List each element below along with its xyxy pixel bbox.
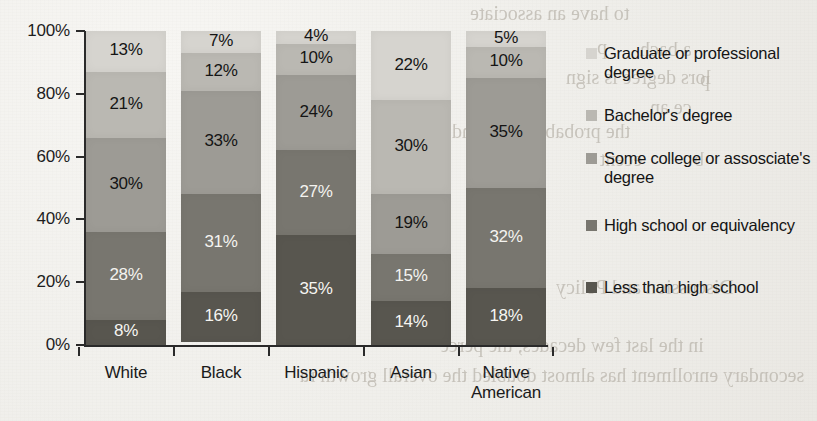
bar-segment-value-label: 33% (204, 131, 237, 151)
y-axis-tick-label: 20% (37, 272, 70, 292)
bar-segment: 22% (371, 31, 451, 100)
bar-segment-value-label: 35% (299, 279, 332, 299)
x-axis-category-label: Asian (359, 363, 463, 383)
bar-segment: 31% (181, 194, 261, 291)
bar-segment-value-label: 13% (109, 40, 142, 60)
bar-segment: 5% (466, 31, 546, 47)
bar-segment: 13% (86, 31, 166, 72)
bar-segment: 4% (276, 31, 356, 44)
bar-segment-value-label: 28% (109, 265, 142, 285)
bar-segment-value-label: 22% (394, 55, 427, 75)
bar-segment: 35% (466, 78, 546, 188)
y-axis-tick-label: 100% (27, 21, 70, 41)
bar-segment: 33% (181, 91, 261, 195)
y-axis-tick-label: 60% (37, 147, 70, 167)
bar-segment: 19% (371, 194, 451, 254)
x-axis-tick-mark (78, 347, 80, 356)
bar-segment-value-label: 27% (299, 182, 332, 202)
bar-segment-value-label: 30% (394, 136, 427, 156)
bar-segment: 14% (371, 301, 451, 345)
legend-color-swatch-icon (586, 153, 597, 164)
x-axis-category-label: White (74, 363, 178, 383)
bar-segment: 24% (276, 75, 356, 150)
x-axis-category-label: Hispanic (264, 363, 368, 383)
legend-item-label: Graduate or professional degree (604, 44, 817, 82)
x-axis-tick-mark (552, 347, 554, 356)
x-axis-tick-mark (363, 347, 365, 356)
legend-item: Less than high school (586, 278, 758, 297)
legend-color-swatch-icon (586, 282, 597, 293)
legend-item-label: High school or equivalency (604, 216, 795, 235)
x-axis-line (84, 345, 548, 347)
bar-segment-value-label: 7% (209, 31, 233, 51)
bar-segment: 15% (371, 254, 451, 301)
bar-segment-value-label: 35% (489, 122, 522, 142)
x-axis-tick-mark (173, 347, 175, 356)
bar-segment-value-label: 19% (394, 213, 427, 233)
bar-segment-value-label: 32% (489, 227, 522, 247)
x-axis-tick-mark (268, 347, 270, 356)
bar-segment: 18% (466, 288, 546, 345)
bar-segment: 32% (466, 188, 546, 288)
legend-item: Some college or assosciate's degree (586, 149, 817, 187)
bar-segment-value-label: 8% (114, 321, 138, 341)
bar-segment: 16% (181, 292, 261, 342)
bar-segment-value-label: 18% (489, 306, 522, 326)
stacked-bar: 5%10%35%32%18% (466, 31, 546, 345)
bar-segment-value-label: 30% (109, 174, 142, 194)
legend-item-label: Some college or assosciate's degree (604, 149, 817, 187)
bar-segment-value-label: 16% (204, 306, 237, 326)
legend-color-swatch-icon (586, 220, 597, 231)
legend-color-swatch-icon (586, 110, 597, 121)
bar-segment-value-label: 14% (394, 312, 427, 332)
bar-segment-value-label: 10% (489, 51, 522, 71)
legend-item: High school or equivalency (586, 216, 795, 235)
bar-segment-value-label: 10% (299, 48, 332, 68)
bar-segment: 28% (86, 232, 166, 320)
legend-item: Bachelor's degree (586, 106, 732, 125)
bar-segment: 8% (86, 320, 166, 345)
y-axis-labels: 100%80%60%40%20%0% (2, 0, 70, 421)
y-axis-tick-label: 40% (37, 209, 70, 229)
y-axis-tick-label: 80% (37, 84, 70, 104)
stacked-bar: 22%30%19%15%14% (371, 31, 451, 345)
stacked-bar: 7%12%33%31%16% (181, 31, 261, 345)
x-axis-tick-mark (458, 347, 460, 356)
bar-segment: 12% (181, 53, 261, 91)
y-axis-tick-label: 0% (46, 335, 70, 355)
bar-segment: 27% (276, 150, 356, 235)
bar-segment: 10% (276, 44, 356, 75)
bar-segment: 21% (86, 72, 166, 138)
stacked-bar: 13%21%30%28%8% (86, 31, 166, 345)
legend-item-label: Bachelor's degree (604, 106, 732, 125)
bar-segment-value-label: 15% (394, 266, 427, 286)
bar-segment: 10% (466, 47, 546, 78)
bar-segment: 30% (371, 100, 451, 194)
x-axis-category-label: Black (169, 363, 273, 383)
bar-segment-value-label: 24% (299, 102, 332, 122)
bar-segment: 35% (276, 235, 356, 345)
legend-color-swatch-icon (586, 48, 597, 59)
bar-segment-value-label: 31% (204, 232, 237, 252)
stacked-bar: 4%10%24%27%35% (276, 31, 356, 345)
bar-segment: 30% (86, 138, 166, 232)
bar-segment-value-label: 21% (109, 94, 142, 114)
bar-segment-value-label: 12% (204, 61, 237, 81)
x-axis-category-label: Native American (454, 363, 558, 403)
bar-segment-value-label: 5% (494, 28, 518, 48)
legend-item: Graduate or professional degree (586, 44, 817, 82)
legend-item-label: Less than high school (604, 278, 758, 297)
bar-segment: 7% (181, 31, 261, 53)
